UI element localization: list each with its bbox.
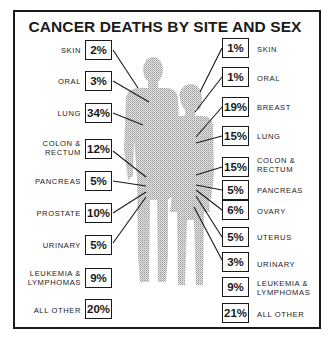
female-value-pancreas: 5% (222, 180, 249, 200)
male-label-prostate: PROSTATE (36, 209, 81, 218)
female-value-leukemia-lymphomas: 9% (222, 277, 249, 297)
female-label-oral: ORAL (257, 74, 280, 83)
female-label-pancreas: PANCREAS (257, 186, 303, 195)
female-value-colon-rectum: 15% (222, 157, 249, 177)
female-label-breast: BREAST (257, 103, 291, 112)
female-label-urinary: URINARY (257, 260, 295, 269)
female-value-all-other: 21% (222, 303, 249, 323)
male-value-lung: 34% (85, 103, 112, 123)
male-value-leukemia-lymphomas: 9% (85, 268, 112, 288)
female-value-ovary: 6% (222, 200, 249, 220)
female-label-all-other: ALL OTHER (257, 310, 304, 319)
female-label-skin: SKIN (257, 45, 277, 54)
male-label-pancreas: PANCREAS (35, 177, 81, 186)
male-value-urinary: 5% (85, 235, 112, 255)
male-value-colon-rectum: 12% (85, 139, 112, 159)
male-value-oral: 3% (85, 71, 112, 91)
male-value-skin: 2% (85, 40, 112, 60)
female-value-lung: 15% (222, 126, 249, 146)
female-value-skin: 1% (222, 38, 249, 58)
female-label-lung: LUNG (257, 132, 281, 141)
female-label-uterus: UTERUS (257, 233, 292, 242)
male-label-colon-rectum: COLON & RECTUM (43, 139, 81, 157)
male-value-all-other: 20% (85, 299, 112, 319)
male-label-skin: SKIN (61, 46, 81, 55)
male-label-lung: LUNG (58, 109, 82, 118)
male-label-all-other: ALL OTHER (34, 306, 81, 315)
female-value-breast: 19% (222, 97, 249, 117)
female-value-oral: 1% (222, 67, 249, 87)
female-value-uterus: 5% (222, 227, 249, 247)
male-value-prostate: 10% (85, 203, 112, 223)
male-value-pancreas: 5% (85, 171, 112, 191)
female-label-ovary: OVARY (257, 207, 286, 216)
male-label-leukemia-lymphomas: LEUKEMIA & LYMPHOMAS (28, 269, 81, 287)
female-label-leukemia-lymphomas: LEUKEMIA & LYMPHOMAS (257, 279, 310, 297)
female-value-urinary: 3% (222, 252, 249, 272)
male-label-urinary: URINARY (43, 241, 81, 250)
female-label-colon-rectum: COLON & RECTUM (257, 156, 295, 174)
male-label-oral: ORAL (58, 77, 81, 86)
